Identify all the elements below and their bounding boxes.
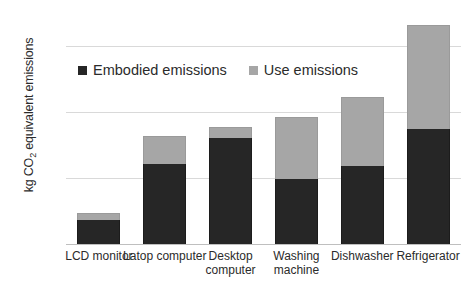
bar-stack[interactable] (209, 127, 252, 244)
bar-segment-embodied-emissions[interactable] (407, 129, 450, 245)
y-axis-title-prefix: kg CO (22, 158, 36, 192)
bar-stack[interactable] (407, 25, 450, 244)
y-axis-title-suffix: equivalent emissions (22, 38, 36, 153)
bar-segment-use-emissions[interactable] (209, 127, 252, 139)
bar-segment-use-emissions[interactable] (341, 97, 384, 166)
bar-segment-use-emissions[interactable] (275, 117, 318, 180)
bar-stack[interactable] (275, 117, 318, 244)
gridline-600 (66, 46, 461, 47)
bar-segment-use-emissions[interactable] (143, 136, 186, 164)
chart-legend: Embodied emissionsUse emissions (78, 62, 358, 78)
x-axis-line (66, 244, 461, 245)
bar-segment-embodied-emissions[interactable] (341, 166, 384, 244)
emissions-bar-chart: kg CO2 equivalent emissions 0200400600 L… (0, 0, 467, 293)
gridline-200 (66, 178, 461, 179)
legend-item[interactable]: Embodied emissions (78, 62, 227, 78)
bar-stack[interactable] (77, 213, 120, 244)
bar-segment-embodied-emissions[interactable] (143, 164, 186, 244)
bar-segment-embodied-emissions[interactable] (275, 179, 318, 244)
legend-swatch-icon (249, 66, 258, 75)
y-axis-title: kg CO2 equivalent emissions (22, 0, 36, 230)
x-axis-label-refrigerator: Refrigerator (386, 250, 467, 264)
bar-segment-embodied-emissions[interactable] (77, 220, 120, 244)
bar-segment-use-emissions[interactable] (77, 213, 120, 221)
gridline-400 (66, 112, 461, 113)
legend-label: Embodied emissions (93, 62, 227, 78)
bar-stack[interactable] (341, 97, 384, 244)
legend-item[interactable]: Use emissions (249, 62, 358, 78)
bar-stack[interactable] (143, 136, 186, 244)
legend-swatch-icon (78, 66, 87, 75)
y-axis-title-subscript: 2 (28, 153, 38, 158)
legend-label: Use emissions (264, 62, 358, 78)
bar-segment-embodied-emissions[interactable] (209, 138, 252, 244)
bar-segment-use-emissions[interactable] (407, 25, 450, 129)
plot-area: 0200400600 (66, 13, 461, 244)
